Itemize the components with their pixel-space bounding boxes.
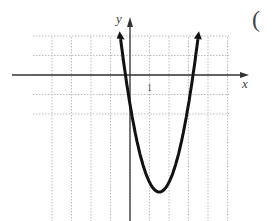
y-axis-arrow-icon [127,17,133,27]
problem-label: ( [252,6,260,33]
x-axis-label: x [241,76,248,91]
curve-arrow-right-icon [194,31,202,39]
y-axis-label: y [114,11,122,26]
curve-arrow-left-icon [117,31,125,39]
parabola-curve [121,39,198,192]
graph: x y 1 1 [0,0,274,221]
x-tick-label: 1 [147,82,152,93]
grid [33,36,229,221]
